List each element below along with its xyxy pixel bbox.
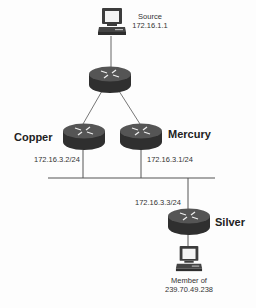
link-core-mercury [119, 91, 140, 124]
router-icon [62, 123, 106, 151]
silver-label: Silver [215, 216, 245, 228]
connection-lines [0, 0, 256, 308]
network-diagram: Source 172.16.1.1 Copper 172.16.3.2/24 M… [0, 0, 256, 308]
silver-interface: 172.16.3.3/24 [135, 198, 181, 207]
source-label: Source 172.16.1.1 [130, 12, 170, 30]
workstation-icon [97, 7, 127, 37]
router-icon [119, 123, 163, 151]
workstation-icon [174, 245, 204, 273]
router-icon [88, 66, 132, 94]
source-name: Source [130, 12, 170, 21]
source-address: 172.16.1.1 [130, 21, 170, 30]
member-label: Member of 239.70.49.238 [158, 276, 220, 294]
copper-label: Copper [14, 131, 53, 143]
mercury-label: Mercury [168, 128, 211, 140]
mercury-interface: 172.16.3.1/24 [147, 155, 193, 164]
copper-interface: 172.16.3.2/24 [34, 155, 80, 164]
member-group-address: 239.70.49.238 [158, 285, 220, 294]
link-core-copper [83, 91, 102, 124]
router-icon [167, 208, 211, 236]
member-line1: Member of [158, 276, 220, 285]
